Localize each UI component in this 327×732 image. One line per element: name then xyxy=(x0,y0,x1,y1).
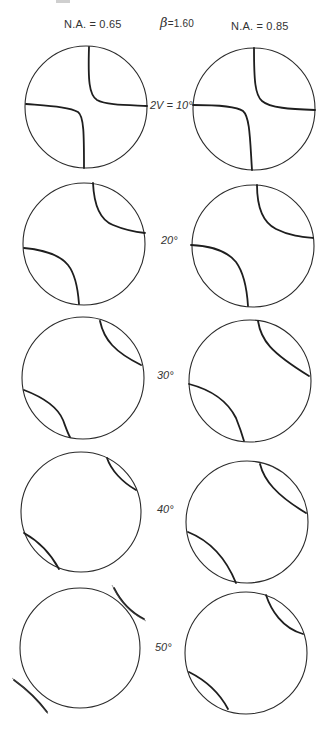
field-circle-r2-left xyxy=(23,183,145,305)
isogyre-r4-left-lower xyxy=(24,533,59,569)
isogyre-r5-left-upper-outside xyxy=(114,588,144,619)
isogyre-r5-right-lower xyxy=(189,672,228,709)
field-circle-r3-left xyxy=(22,317,144,439)
isogyre-r1-right-upper xyxy=(254,48,315,110)
isogyre-r2-right-upper xyxy=(257,185,313,238)
isogyre-r4-right-upper xyxy=(260,464,306,513)
conoscopic-figure-grid xyxy=(0,0,327,732)
isogyre-r3-left-lower xyxy=(24,390,70,437)
isogyre-r5-left-lower-outside xyxy=(14,680,47,712)
field-circle-r5-left xyxy=(20,588,140,708)
field-circle-r5-right xyxy=(185,592,307,714)
isogyre-r2-left-upper xyxy=(93,183,145,233)
isogyre-r3-left-upper xyxy=(100,321,141,365)
field-circle-r3-right xyxy=(189,320,311,442)
field-circle-r4-right xyxy=(186,461,308,583)
field-circle-r4-left xyxy=(21,452,141,572)
isogyre-r4-right-lower xyxy=(188,532,236,583)
isogyre-r1-left-lower xyxy=(26,104,84,168)
isogyre-r4-left-upper xyxy=(107,458,136,490)
isogyre-r5-right-upper xyxy=(266,595,303,634)
isogyre-r1-right-lower xyxy=(193,105,252,170)
field-circle-r2-right xyxy=(192,185,314,307)
field-circle-r1-left xyxy=(25,46,147,168)
